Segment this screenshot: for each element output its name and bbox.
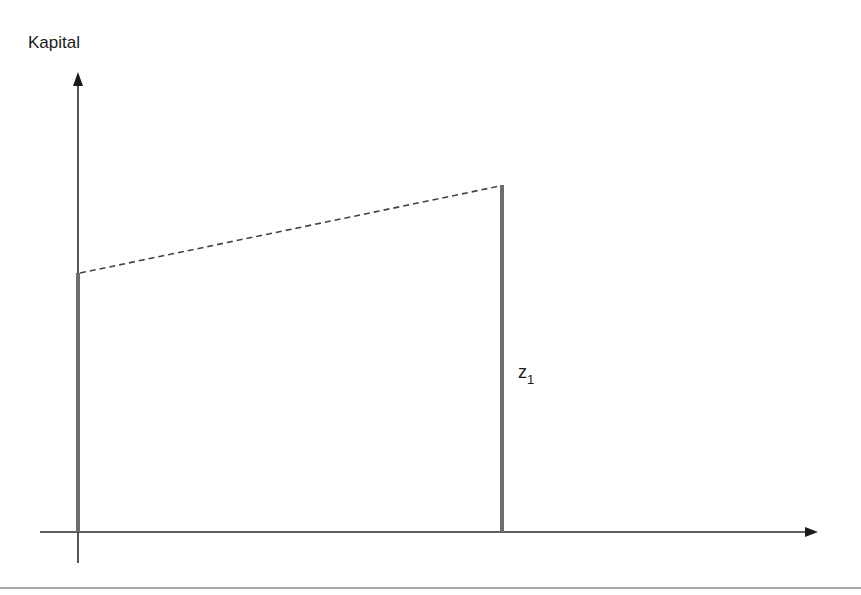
y-axis-arrow-icon xyxy=(73,72,83,86)
x-axis-arrow-icon xyxy=(805,527,818,537)
x-axis xyxy=(40,527,818,537)
capital-growth-dashed-line xyxy=(80,186,500,273)
capital-diagram: Kapital z1 xyxy=(0,0,861,595)
z1-label-subscript: 1 xyxy=(527,372,534,387)
y-axis-label: Kapital xyxy=(28,33,80,52)
z1-label: z1 xyxy=(518,362,534,387)
z1-label-main: z xyxy=(518,362,527,382)
